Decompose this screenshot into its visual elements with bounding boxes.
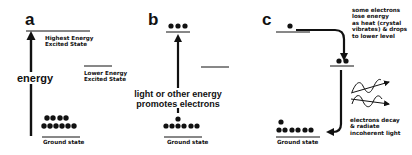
top-electron-c — [287, 23, 292, 28]
decay-annotation: electrons decay & radiate incoherent lig… — [350, 117, 401, 136]
energy-label: energy — [16, 72, 54, 84]
panel-b-graphics — [163, 23, 229, 137]
ground-state-label-b: Ground state — [167, 139, 208, 145]
highest-energy-label-line2: Excited State — [45, 41, 93, 47]
heat-loss-annotation: some electrons lose energy as heat (crys… — [352, 7, 407, 39]
decay-arrow-head — [326, 128, 334, 136]
panel-letter-c: c — [262, 11, 271, 28]
decay-annotation-line: incoherent light — [350, 130, 401, 136]
ground-state-label-a: Ground state — [43, 139, 84, 145]
ground-state-label-c: Ground state — [277, 139, 318, 145]
heat-loss-arrow — [296, 30, 344, 55]
promotion-label-line2: promotes electrons — [131, 99, 225, 109]
lower-energy-label: Lower Energy Excited State — [84, 70, 127, 83]
ground-electrons-c — [276, 119, 313, 132]
excited-electrons-b — [168, 23, 187, 28]
decay-arrow — [332, 70, 341, 132]
panel-letter-a: a — [25, 11, 34, 28]
energy-arrow-head — [27, 31, 36, 40]
promotion-label: light or other energy promotes electrons — [131, 89, 225, 109]
ground-electrons-b — [163, 116, 199, 128]
heat-loss-annotation-line: to lower level — [352, 33, 407, 39]
panel-letter-b: b — [148, 11, 158, 28]
promotion-arrow-head — [174, 34, 182, 42]
highest-energy-label: Highest Energy Excited State — [45, 35, 93, 48]
ground-electrons-a — [41, 115, 76, 128]
middle-electrons-c — [336, 58, 348, 63]
lower-energy-label-line2: Excited State — [84, 76, 127, 82]
heat-loss-annotation-line: vibrates) & drops — [352, 26, 407, 32]
promotion-label-line1: light or other energy — [131, 89, 225, 99]
incoherent-light-waves-icon — [351, 79, 389, 106]
